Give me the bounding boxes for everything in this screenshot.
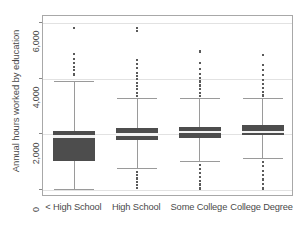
x-tick-label: < High School — [38, 202, 108, 212]
outlier-point — [262, 91, 264, 93]
plot-area — [42, 15, 293, 196]
outlier-point — [262, 87, 264, 89]
y-axis-title: Annual hours worked by education — [9, 6, 23, 196]
x-tick-label: High School — [101, 202, 171, 212]
outlier-point — [262, 94, 264, 96]
outlier-point — [262, 74, 264, 76]
upper-whisker-cap — [243, 98, 283, 99]
outlier-point — [262, 69, 264, 71]
x-tick-label: College Degree — [227, 202, 297, 212]
y-tick-label: 6,000 — [31, 22, 42, 62]
outlier-point — [262, 54, 264, 56]
outlier-point — [262, 174, 264, 176]
outlier-point — [262, 79, 264, 81]
outlier-point — [262, 165, 264, 167]
x-tick-label: Some College — [164, 202, 234, 212]
outlier-point — [262, 170, 264, 172]
outlier-point — [262, 187, 264, 189]
boxplot-figure: Annual hours worked by education 02,0004… — [0, 0, 306, 228]
y-tick-label: 2,000 — [31, 133, 42, 173]
outlier-point — [262, 161, 264, 163]
outlier-point — [262, 178, 264, 180]
median-line — [242, 131, 284, 133]
y-tick-label: 4,000 — [31, 78, 42, 118]
outlier-point — [262, 64, 264, 66]
box-plot — [43, 16, 294, 195]
lower-whisker-cap — [243, 158, 283, 159]
outlier-point — [262, 183, 264, 185]
outlier-point — [262, 83, 264, 85]
